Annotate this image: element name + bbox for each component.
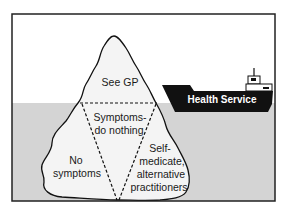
label-see-gp: See GP (102, 76, 139, 88)
label-symptoms-do-nothing-2: do nothing (94, 124, 143, 136)
label-symptoms-do-nothing-1: Symptoms- (93, 111, 147, 123)
iceberg-diagram: See GP Symptoms- do nothing No symptoms … (0, 0, 285, 215)
label-self-medicate-2: medicate, (139, 155, 185, 167)
label-no-symptoms-2: symptoms (53, 167, 101, 179)
label-self-medicate-3: alternative (137, 168, 186, 180)
ship-window-icon (251, 78, 256, 81)
label-no-symptoms-1: No (69, 154, 83, 166)
ship-label: Health Service (188, 94, 257, 105)
ship-porthole-icon (263, 87, 269, 89)
label-self-medicate-1: Self- (149, 142, 171, 154)
label-self-medicate-4: practitioners (130, 181, 187, 193)
